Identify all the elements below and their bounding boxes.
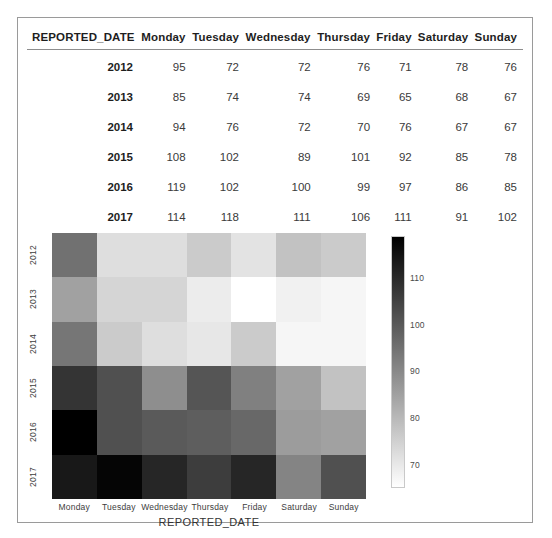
table-cell-index: 2014	[27, 112, 141, 142]
heatmap-cell	[187, 322, 232, 366]
table-cell-friday: 65	[376, 82, 418, 112]
heatmap-y-tick-2016: 2016	[18, 410, 48, 454]
heatmap-cell	[52, 410, 97, 454]
heatmap-y-tick-label: 2013	[28, 289, 38, 309]
heatmap-y-tick-label: 2012	[28, 245, 38, 265]
heatmap-cell	[142, 277, 187, 321]
column-header-tuesday: Tuesday	[192, 29, 245, 50]
table-cell-wednesday: 72	[245, 112, 317, 142]
heatmap-cell	[187, 233, 232, 277]
dataframe-table-container: REPORTED_DATE Monday Tuesday Wednesday T…	[27, 29, 523, 232]
table-cell-index: 2013	[27, 82, 141, 112]
table-cell-tuesday: 76	[192, 112, 245, 142]
column-header-thursday: Thursday	[317, 29, 376, 50]
table-cell-sunday: 67	[474, 82, 523, 112]
heatmap-cell	[52, 366, 97, 410]
table-cell-saturday: 68	[418, 82, 475, 112]
heatmap-cell	[187, 277, 232, 321]
heatmap-cell	[321, 233, 366, 277]
table-cell-thursday: 69	[317, 82, 376, 112]
table-row: 201494767270766767	[27, 112, 523, 142]
table-cell-friday: 76	[376, 112, 418, 142]
heatmap-cell	[276, 277, 321, 321]
heatmap-y-tick-label: 2014	[28, 334, 38, 354]
column-header-monday: Monday	[141, 29, 192, 50]
colorbar-tick-100: 100	[410, 320, 425, 330]
table-cell-friday: 92	[376, 142, 418, 172]
heatmap-cell	[142, 455, 187, 499]
table-cell-monday: 119	[141, 172, 192, 202]
heatmap-cell	[187, 366, 232, 410]
table-cell-index: 2015	[27, 142, 141, 172]
heatmap-y-tick-2015: 2015	[18, 366, 48, 410]
table-cell-wednesday: 89	[245, 142, 317, 172]
heatmap-cell	[231, 410, 276, 454]
heatmap-cell	[52, 233, 97, 277]
table-header-row: REPORTED_DATE Monday Tuesday Wednesday T…	[27, 29, 523, 50]
heatmap-cell	[142, 366, 187, 410]
heatmap-cell	[276, 455, 321, 499]
heatmap-cell	[276, 322, 321, 366]
table-cell-wednesday: 74	[245, 82, 317, 112]
table-row: 201385747469656867	[27, 82, 523, 112]
table-cell-monday: 94	[141, 112, 192, 142]
heatmap-grid	[52, 233, 366, 499]
heatmap-cell	[187, 455, 232, 499]
table-header: REPORTED_DATE Monday Tuesday Wednesday T…	[27, 29, 523, 50]
heatmap-cell	[231, 322, 276, 366]
table-cell-monday: 95	[141, 50, 192, 83]
table-cell-saturday: 86	[418, 172, 475, 202]
table-cell-sunday: 67	[474, 112, 523, 142]
table-cell-thursday: 101	[317, 142, 376, 172]
heatmap-cell	[142, 322, 187, 366]
table-cell-thursday: 99	[317, 172, 376, 202]
heatmap-cell	[97, 410, 142, 454]
column-header-index: REPORTED_DATE	[27, 29, 141, 50]
heatmap-cell	[231, 233, 276, 277]
heatmap-cell	[52, 277, 97, 321]
table-body: 2012957272767178762013857474696568672014…	[27, 50, 523, 233]
heatmap-cell	[276, 233, 321, 277]
colorbar	[391, 236, 405, 488]
heatmap-cell	[321, 366, 366, 410]
table-cell-index: 2016	[27, 172, 141, 202]
heatmap-y-tick-label: 2016	[28, 422, 38, 442]
heatmap-y-tick-2017: 2017	[18, 455, 48, 499]
heatmap-cell	[52, 322, 97, 366]
heatmap-cell	[276, 366, 321, 410]
heatmap-y-tick-label: 2017	[28, 467, 38, 487]
colorbar-tick-110: 110	[410, 273, 424, 283]
table-cell-saturday: 85	[418, 142, 475, 172]
column-header-sunday: Sunday	[474, 29, 523, 50]
heatmap-cell	[97, 455, 142, 499]
screenshot-canvas: REPORTED_DATE Monday Tuesday Wednesday T…	[0, 0, 552, 538]
column-header-friday: Friday	[376, 29, 418, 50]
heatmap-cell	[187, 410, 232, 454]
table-cell-monday: 108	[141, 142, 192, 172]
column-header-wednesday: Wednesday	[245, 29, 317, 50]
table-row: 201611910210099978685	[27, 172, 523, 202]
table-cell-tuesday: 72	[192, 50, 245, 83]
table-cell-tuesday: 74	[192, 82, 245, 112]
heatmap-figure: 201220132014201520162017 MondayTuesdayWe…	[18, 206, 532, 522]
table-cell-thursday: 76	[317, 50, 376, 83]
heatmap-cell	[321, 322, 366, 366]
heatmap-cell	[97, 277, 142, 321]
table-cell-tuesday: 102	[192, 172, 245, 202]
heatmap-y-tick-2012: 2012	[18, 233, 48, 277]
heatmap-cell	[97, 366, 142, 410]
table-cell-tuesday: 102	[192, 142, 245, 172]
heatmap-cell	[321, 455, 366, 499]
figure-frame: REPORTED_DATE Monday Tuesday Wednesday T…	[17, 17, 533, 523]
colorbar-tick-90: 90	[410, 366, 420, 376]
table-cell-wednesday: 100	[245, 172, 317, 202]
heatmap-cell	[52, 455, 97, 499]
heatmap-cell	[142, 410, 187, 454]
heatmap-x-axis-label: REPORTED_DATE	[52, 516, 366, 528]
heatmap-cell	[97, 233, 142, 277]
heatmap-y-tick-2014: 2014	[18, 322, 48, 366]
table-cell-sunday: 85	[474, 172, 523, 202]
heatmap-cell	[97, 322, 142, 366]
heatmap-cell	[321, 277, 366, 321]
table-cell-index: 2012	[27, 50, 141, 83]
